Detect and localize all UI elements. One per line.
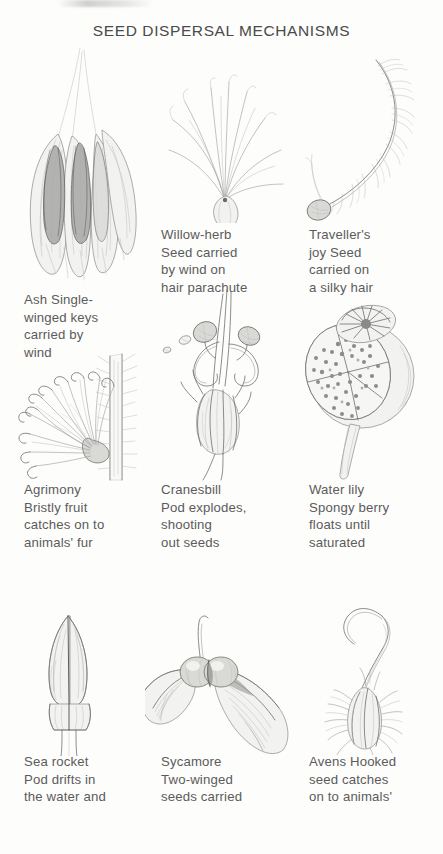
- sycamore-two-winged-seeds-illustration: [145, 608, 305, 758]
- caption-water-lily: Water lily Spongy berry floats until sat…: [309, 481, 389, 551]
- entry-cranesbill: Cranesbill Pod explodes, shooting out se…: [153, 338, 296, 608]
- caption-avens: Avens Hooked seed catches on to animals': [309, 753, 396, 806]
- caption-willow-herb: Willow-herb Seed carried by wind on hair…: [161, 226, 247, 296]
- entry-sycamore: Sycamore Two-winged seeds carried: [153, 608, 296, 854]
- caption-sycamore: Sycamore Two-winged seeds carried: [161, 753, 242, 806]
- illustration-page: SEED DISPERSAL MECHANISMS: [0, 0, 443, 854]
- caption-cranesbill: Cranesbill Pod explodes, shooting out se…: [161, 481, 247, 551]
- entry-travellers-joy: Traveller's joy Seed carried on a silky …: [296, 46, 443, 338]
- dispersal-grid: Ash Single- winged keys carried by wind: [0, 46, 443, 854]
- caption-travellers-joy: Traveller's joy Seed carried on a silky …: [309, 226, 373, 296]
- caption-agrimony: Agrimony Bristly fruit catches on to ani…: [24, 481, 104, 551]
- agrimony-bristly-fruit-illustration: [0, 344, 152, 484]
- scan-artifact: [58, 0, 154, 7]
- sea-rocket-pod-illustration: [6, 606, 146, 756]
- caption-sea-rocket: Sea rocket Pod drifts in the water and: [24, 753, 106, 806]
- entry-willow-herb: Willow-herb Seed carried by wind on hair…: [153, 46, 296, 338]
- entry-water-lily: Water lily Spongy berry floats until sat…: [296, 338, 443, 608]
- entry-ash: Ash Single- winged keys carried by wind: [0, 46, 153, 338]
- grid-row-1: Ash Single- winged keys carried by wind: [0, 46, 443, 338]
- page-title: SEED DISPERSAL MECHANISMS: [0, 22, 443, 40]
- grid-row-2: Agrimony Bristly fruit catches on to ani…: [0, 338, 443, 608]
- entry-agrimony: Agrimony Bristly fruit catches on to ani…: [0, 338, 153, 608]
- willow-herb-parachute-illustration: [155, 58, 297, 223]
- entry-avens: Avens Hooked seed catches on to animals': [296, 608, 443, 854]
- avens-hooked-seed-illustration: [290, 600, 440, 755]
- grid-row-3: Sea rocket Pod drifts in the water and: [0, 608, 443, 854]
- travellers-joy-silky-hair-illustration: [290, 52, 442, 222]
- entry-sea-rocket: Sea rocket Pod drifts in the water and: [0, 608, 153, 854]
- ash-winged-keys-illustration: [6, 42, 156, 292]
